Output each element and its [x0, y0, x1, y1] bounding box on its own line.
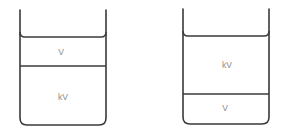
- beaker-left: V kV: [20, 10, 106, 125]
- diagram-canvas: V kV kV V: [0, 0, 298, 131]
- beaker-left-top-layer-label: V: [58, 47, 64, 57]
- beaker-left-outline: [20, 10, 106, 125]
- beaker-right-top-layer-label: kV: [222, 60, 232, 70]
- beaker-right-bottom-layer-label: V: [222, 103, 228, 113]
- beaker-right: kV V: [183, 9, 269, 124]
- beaker-right-meniscus: [183, 31, 269, 36]
- beaker-left-bottom-layer-label: kV: [58, 92, 68, 102]
- beaker-left-meniscus: [20, 32, 106, 37]
